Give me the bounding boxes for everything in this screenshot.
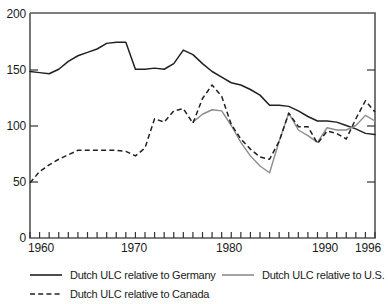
y-axis-ticks: [30, 70, 38, 182]
y-tick-label: 0: [20, 231, 27, 245]
y-tick-label: 50: [13, 175, 26, 189]
chart-legend: Dutch ULC relative to Germany Dutch ULC …: [30, 269, 385, 300]
legend-label-us: Dutch ULC relative to U.S.: [262, 269, 385, 281]
legend-label-germany: Dutch ULC relative to Germany: [70, 269, 216, 281]
x-tick-label: 1996: [355, 241, 381, 255]
y-axis-labels: 200 150 100 50 0: [7, 7, 27, 245]
y-tick-label: 200: [7, 7, 27, 21]
y-tick-label: 150: [7, 63, 27, 77]
x-tick-label: 1970: [121, 241, 147, 255]
series-line-us: [193, 110, 375, 173]
x-axis-ticks: [30, 232, 375, 238]
line-chart: 200 150 100 50 0 1960 1970 1980: [0, 0, 388, 304]
x-axis-labels: 1960 1970 1980 1990 1996: [28, 241, 381, 255]
data-series-group: [30, 42, 375, 183]
x-tick-label: 1980: [216, 241, 242, 255]
series-line-germany: [30, 42, 375, 134]
x-tick-label: 1990: [312, 241, 338, 255]
y-axis-ticks-right: [367, 70, 375, 182]
x-tick-label: 1960: [28, 241, 54, 255]
legend-label-canada: Dutch ULC relative to Canada: [70, 288, 210, 300]
plot-frame: [30, 13, 375, 238]
chart-figure: 200 150 100 50 0 1960 1970 1980: [0, 0, 388, 304]
y-tick-label: 100: [7, 119, 27, 133]
